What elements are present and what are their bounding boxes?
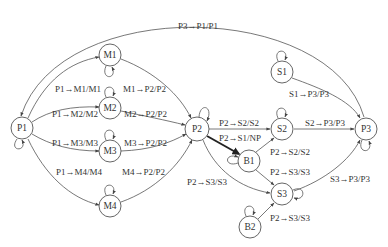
label-p1-m4: P1→M4/M4	[56, 167, 103, 177]
self-loop-s1	[277, 51, 286, 61]
label-p2-s1np: P2→S1/NP	[219, 133, 261, 143]
node-s1: S1	[271, 61, 293, 83]
label-b2-s3: P2→S3/S3	[270, 213, 311, 223]
label-p1-m3: P1→M3/M3	[52, 138, 99, 148]
label-m1-p2: M1→P2/P2	[123, 84, 166, 94]
svg-text:M2: M2	[103, 103, 116, 113]
node-p2: P2	[185, 117, 209, 141]
node-p3: P3	[355, 118, 377, 140]
svg-text:M3: M3	[103, 146, 116, 156]
node-m3: M3	[99, 140, 121, 162]
label-s2-p3: S2→P3/P3	[305, 118, 346, 128]
label-m2-p2: M2→P2/P2	[124, 109, 167, 119]
svg-text:S1: S1	[277, 67, 287, 77]
label-p2-s3: P2→S3/S3	[187, 177, 228, 187]
svg-text:M4: M4	[103, 201, 116, 211]
self-loop-m2	[105, 87, 114, 97]
self-loop-m1	[105, 66, 113, 77]
label-p1-m2: P1→M2/M2	[52, 109, 98, 119]
svg-text:B1: B1	[243, 156, 254, 166]
node-m1: M1	[99, 44, 121, 66]
label-p1-m1: P1→M1/M1	[55, 84, 101, 94]
node-s3: S3	[271, 183, 293, 205]
label-m3-p2: M3→P2/P2	[124, 138, 167, 148]
self-loop-m4	[105, 185, 114, 195]
node-s2: S2	[271, 118, 293, 140]
node-b2: B2	[239, 216, 261, 238]
node-m4: M4	[99, 195, 121, 217]
self-loop-m3	[105, 130, 114, 140]
svg-text:M1: M1	[103, 50, 116, 60]
svg-text:P3: P3	[361, 124, 371, 134]
svg-text:S3: S3	[277, 189, 287, 199]
self-loop-b1	[228, 156, 239, 164]
self-loop-p1	[15, 139, 24, 149]
svg-text:B2: B2	[244, 222, 255, 232]
state-diagram: P1 M1 M2 M3 M4 P2 B1 B2 S1 S2 S3 P3	[0, 0, 388, 247]
label-m4-p2: M4→P2/P2	[122, 167, 165, 177]
label-p2-s2: P2→S2/S2	[219, 118, 259, 128]
self-loop-p3	[361, 140, 370, 151]
node-p1: P1	[11, 117, 33, 139]
svg-text:S2: S2	[277, 124, 287, 134]
label-s1-p3: S1→P3/P3	[289, 89, 330, 99]
node-m2: M2	[99, 97, 121, 119]
svg-text:P1: P1	[17, 123, 27, 133]
self-loop-b2	[245, 206, 254, 216]
label-s3-p3: S3→P3/P3	[330, 174, 371, 184]
label-b1-s3: P2→S3/S3	[270, 167, 311, 177]
self-loop-s2	[277, 108, 286, 118]
label-p3-p1: P3→P1/P1	[178, 21, 218, 31]
self-loop-s3	[293, 189, 303, 199]
node-b1: B1	[238, 150, 260, 172]
svg-text:P2: P2	[192, 124, 202, 134]
label-b1-s2: P2→S2/S2	[270, 147, 310, 157]
edge-p3-p1	[21, 27, 364, 117]
